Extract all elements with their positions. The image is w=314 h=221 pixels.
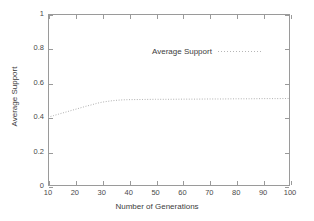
x-tick-label: 50 [151, 189, 159, 197]
x-tick-label: 70 [205, 189, 213, 197]
chart-figure: 00.20.40.60.81 102030405060708090100 Ave… [0, 0, 314, 221]
x-tick-mark-top [103, 15, 104, 19]
x-tick-label: 20 [71, 189, 79, 197]
x-tick-mark [264, 181, 265, 185]
x-tick-mark [49, 181, 50, 185]
y-axis-title: Average Support [10, 37, 19, 157]
y-tick-label: 0.4 [34, 113, 44, 121]
x-tick-mark [210, 181, 211, 185]
chart-legend: Average Support [152, 47, 262, 56]
x-tick-label: 60 [178, 189, 186, 197]
y-tick-label: 0.2 [34, 148, 44, 156]
x-tick-mark-top [49, 15, 50, 19]
y-tick-mark-right [285, 49, 289, 50]
x-tick-mark-top [157, 15, 158, 19]
plot-area [48, 14, 290, 186]
y-tick-mark-right [285, 15, 289, 16]
x-tick-mark-top [76, 15, 77, 19]
x-tick-mark-top [264, 15, 265, 19]
x-tick-mark-top [291, 15, 292, 19]
x-tick-mark [157, 181, 158, 185]
x-tick-mark [291, 181, 292, 185]
x-tick-label: 100 [284, 189, 297, 197]
x-axis-title: Number of Generations [0, 202, 314, 211]
x-tick-mark-top [237, 15, 238, 19]
y-tick-mark-right [285, 118, 289, 119]
x-tick-label: 40 [124, 189, 132, 197]
x-tick-mark [130, 181, 131, 185]
x-tick-mark-top [130, 15, 131, 19]
y-tick-mark [49, 84, 53, 85]
x-tick-label: 80 [232, 189, 240, 197]
x-tick-mark-top [183, 15, 184, 19]
x-tick-mark [103, 181, 104, 185]
y-tick-mark-right [285, 84, 289, 85]
x-tick-mark [183, 181, 184, 185]
x-tick-mark [76, 181, 77, 185]
y-tick-mark [49, 153, 53, 154]
y-tick-label: 0.8 [34, 44, 44, 52]
y-tick-mark [49, 118, 53, 119]
legend-entry-label: Average Support [152, 47, 212, 56]
y-tick-label: 1 [40, 10, 44, 18]
y-tick-mark-right [285, 153, 289, 154]
x-tick-label: 10 [44, 189, 52, 197]
y-tick-mark [49, 49, 53, 50]
y-tick-mark [49, 187, 53, 188]
y-tick-mark-right [285, 187, 289, 188]
x-tick-mark [237, 181, 238, 185]
x-tick-label: 90 [259, 189, 267, 197]
x-tick-label: 30 [98, 189, 106, 197]
legend-line-sample [218, 51, 262, 52]
x-tick-mark-top [210, 15, 211, 19]
y-tick-label: 0.6 [34, 79, 44, 87]
